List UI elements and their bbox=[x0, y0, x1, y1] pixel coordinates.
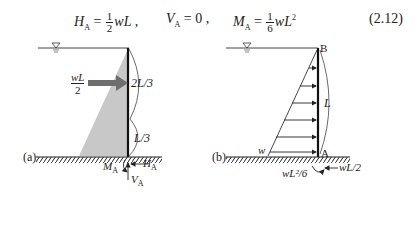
point-b-label: B bbox=[320, 42, 327, 54]
distributed-load-arrows bbox=[270, 68, 316, 152]
figure-a-label: (a) bbox=[23, 150, 36, 165]
moment-reaction-label-a: MA bbox=[103, 160, 118, 175]
hydrostatic-load-a bbox=[79, 49, 128, 156]
horizontal-reaction-label-b: wL/2 bbox=[339, 161, 361, 173]
moment-arrow-b bbox=[312, 166, 324, 172]
upper-dimension-label: 2L/3 bbox=[131, 76, 153, 91]
horizontal-reaction-label-a: HA bbox=[143, 157, 157, 172]
length-label: L bbox=[324, 96, 331, 111]
point-a-label: A bbox=[321, 147, 329, 159]
resultant-force-label: wL 2 bbox=[71, 71, 84, 96]
figure-b bbox=[226, 43, 350, 172]
lower-dimension-label: L/3 bbox=[134, 131, 150, 146]
vertical-reaction-label-a: VA bbox=[131, 173, 144, 188]
moment-reaction-label-b: wL²/6 bbox=[282, 167, 307, 179]
load-intensity-label: w bbox=[258, 144, 265, 156]
figure-b-label: (b) bbox=[212, 150, 226, 165]
